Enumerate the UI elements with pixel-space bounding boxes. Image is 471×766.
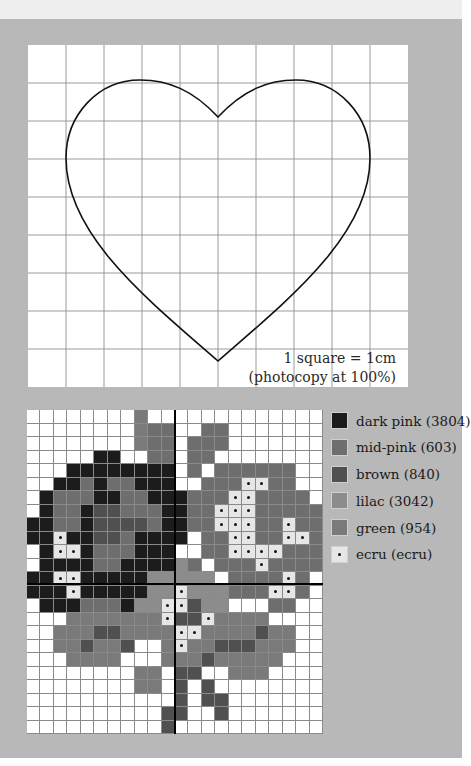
chart-cell: [310, 464, 323, 478]
chart-cell: [135, 653, 148, 667]
chart-cell: [27, 478, 40, 492]
chart-cell: [215, 613, 228, 627]
chart-cell: [202, 599, 215, 613]
chart-cell: [40, 451, 53, 465]
chart-cell: [202, 694, 215, 708]
chart-cell: [40, 559, 53, 573]
chart-cell: [310, 680, 323, 694]
chart-cell: [296, 640, 309, 654]
chart-cell: [27, 599, 40, 613]
chart-cell: [94, 559, 107, 573]
chart-cell: [121, 437, 134, 451]
chart-cell: [215, 559, 228, 573]
chart-cell: [94, 518, 107, 532]
chart-cell: [148, 464, 161, 478]
chart-cell: [162, 626, 175, 640]
chart-cell: [94, 464, 107, 478]
chart-cell: [81, 653, 94, 667]
chart-cell: [27, 505, 40, 519]
chart-cell: [94, 410, 107, 424]
chart-cell: [215, 545, 228, 559]
chart-cell: [296, 505, 309, 519]
chart-cell: [310, 667, 323, 681]
chart-cell: [162, 451, 175, 465]
chart-cell: [310, 559, 323, 573]
chart-cell: [40, 721, 53, 735]
chart-cell: [296, 626, 309, 640]
chart-cell: [67, 559, 80, 573]
chart-cell: [283, 424, 296, 438]
chart-cell: [242, 424, 255, 438]
chart-cell: [242, 410, 255, 424]
chart-cell: [40, 640, 53, 654]
chart-cell: [310, 707, 323, 721]
chart-cell: [135, 626, 148, 640]
chart-cell: [81, 721, 94, 735]
chart-cell: [229, 640, 242, 654]
chart-cell: [296, 491, 309, 505]
chart-cell: [283, 586, 296, 600]
chart-cell: [175, 451, 188, 465]
chart-cell: [27, 545, 40, 559]
chart-cell: [215, 586, 228, 600]
legend-item: dark pink (3804): [331, 412, 471, 429]
chart-cell: [242, 694, 255, 708]
chart-cell: [135, 437, 148, 451]
chart-cell: [269, 505, 282, 519]
chart-cell: [108, 653, 121, 667]
scale-note: 1 square = 1cm: [284, 350, 397, 366]
chart-cell: [296, 707, 309, 721]
chart-cell: [40, 518, 53, 532]
chart-cell: [229, 694, 242, 708]
chart-cell: [108, 491, 121, 505]
chart-cell: [175, 640, 188, 654]
chart-cell: [242, 626, 255, 640]
chart-cell: [67, 694, 80, 708]
chart-cell: [283, 545, 296, 559]
chart-cell: [162, 599, 175, 613]
chart-cell: [229, 653, 242, 667]
chart-cell: [67, 667, 80, 681]
chart-cell: [54, 478, 67, 492]
heart-outline-icon: [28, 45, 408, 387]
chart-cell: [269, 721, 282, 735]
chart-cell: [242, 518, 255, 532]
chart-cell: [256, 424, 269, 438]
chart-cell: [175, 653, 188, 667]
chart-cell: [256, 532, 269, 546]
chart-cell: [283, 478, 296, 492]
chart-cell: [27, 451, 40, 465]
chart-cell: [283, 532, 296, 546]
chart-cell: [94, 694, 107, 708]
chart-cell: [148, 640, 161, 654]
chart-cell: [54, 464, 67, 478]
chart-cell: [135, 613, 148, 627]
chart-cell: [229, 518, 242, 532]
chart-cell: [229, 491, 242, 505]
chart-cell: [162, 667, 175, 681]
chart-cell: [135, 410, 148, 424]
chart-cell: [175, 599, 188, 613]
chart-cell: [256, 478, 269, 492]
chart-cell: [121, 586, 134, 600]
chart-cell: [175, 437, 188, 451]
chart-cell: [242, 707, 255, 721]
chart-cell: [67, 545, 80, 559]
chart-cell: [121, 667, 134, 681]
chart-cell: [27, 707, 40, 721]
chart-cell: [67, 464, 80, 478]
chart-cell: [283, 410, 296, 424]
chart-cell: [148, 586, 161, 600]
chart-cell: [202, 518, 215, 532]
chart-cell: [40, 653, 53, 667]
chart-cell: [296, 599, 309, 613]
chart-cell: [135, 586, 148, 600]
chart-cell: [135, 518, 148, 532]
chart-cell: [108, 532, 121, 546]
chart-cell: [67, 410, 80, 424]
chart-cell: [54, 721, 67, 735]
chart-cell: [135, 707, 148, 721]
chart-cell: [215, 721, 228, 735]
chart-cell: [256, 667, 269, 681]
legend-label: brown (840): [356, 466, 440, 482]
